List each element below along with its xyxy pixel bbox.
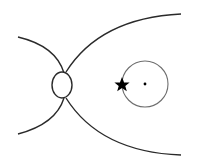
- left-upper-curve: [18, 37, 64, 73]
- diagram-canvas: [0, 0, 200, 163]
- right-lower-curve: [66, 98, 181, 155]
- junction-ellipse: [52, 72, 72, 98]
- diagram-svg: [0, 0, 200, 163]
- right-upper-curve: [66, 14, 181, 72]
- star-icon: [114, 77, 129, 91]
- left-lower-curve: [18, 98, 64, 134]
- center-dot: [144, 83, 147, 86]
